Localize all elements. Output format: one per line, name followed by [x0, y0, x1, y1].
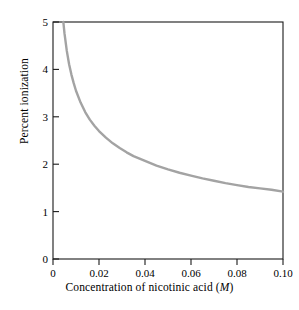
y-tick-label: 1 [32, 206, 48, 217]
x-tick-label: 0.08 [227, 268, 246, 279]
y-tick-label: 0 [32, 254, 48, 265]
x-tick-label: 0 [50, 268, 56, 279]
y-tick-label: 2 [32, 159, 48, 170]
plot-frame [53, 22, 283, 259]
y-axis-ticks [53, 22, 59, 259]
x-axis-title-tail: ) [230, 281, 234, 293]
y-tick-label: 4 [32, 64, 48, 75]
x-axis-ticks [53, 259, 283, 265]
data-series-line [63, 22, 283, 192]
x-axis-title: Concentration of nicotinic acid (M) [0, 281, 299, 293]
x-tick-label: 0.04 [135, 268, 154, 279]
y-tick-label: 3 [32, 111, 48, 122]
y-tick-label: 5 [32, 17, 48, 28]
x-axis-title-symbol: M [220, 281, 230, 293]
chart-figure: 0 0.02 0.04 0.06 0.08 0.10 5 4 3 2 1 0 C… [0, 0, 299, 310]
x-tick-label: 0.10 [273, 268, 292, 279]
x-tick-label: 0.06 [181, 268, 200, 279]
x-axis-title-text: Concentration of nicotinic acid ( [65, 281, 219, 293]
x-tick-label: 0.02 [89, 268, 108, 279]
y-axis-title: Percent ionization [18, 31, 30, 171]
